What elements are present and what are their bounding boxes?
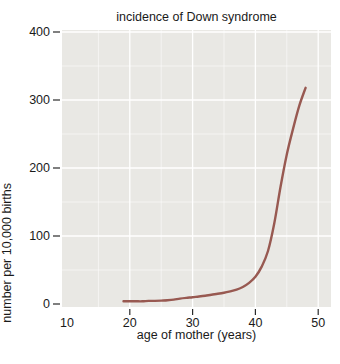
y-tick-label: 300: [18, 93, 50, 107]
down-syndrome-incidence-chart: incidence of Down syndrome number per 10…: [0, 0, 340, 364]
x-axis-title: age of mother (years): [62, 328, 331, 342]
y-tick-label: 0: [18, 297, 50, 311]
y-tick-label: 100: [18, 229, 50, 243]
y-tick-label: 200: [18, 161, 50, 175]
y-tick-label: 400: [18, 25, 50, 39]
plot-area: [0, 0, 340, 364]
